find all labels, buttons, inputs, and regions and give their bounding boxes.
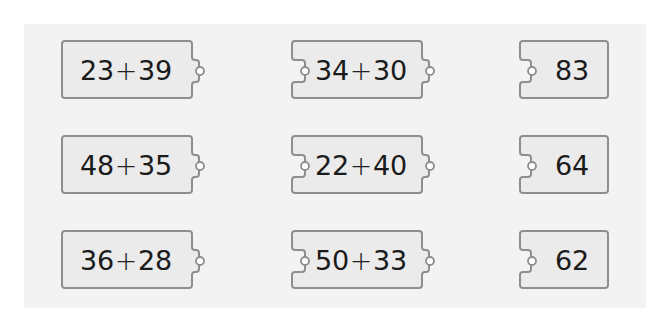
puzzle-piece-expression[interactable]: 50+33 xyxy=(289,230,441,292)
expression-label: 36+28 xyxy=(80,230,172,292)
plus-sign: + xyxy=(349,55,373,86)
connector-knob-icon xyxy=(196,257,204,265)
operand-a: 36 xyxy=(80,245,114,276)
operand-b: 40 xyxy=(373,150,407,181)
puzzle-piece-expression[interactable]: 48+35 xyxy=(59,135,209,197)
connector-knob-icon xyxy=(426,162,434,170)
operand-b: 33 xyxy=(373,245,407,276)
plus-sign: + xyxy=(349,245,373,276)
connector-knob-icon xyxy=(528,67,536,75)
answer-label: 83 xyxy=(555,40,589,102)
expression-label: 48+35 xyxy=(80,135,172,197)
plus-sign: + xyxy=(114,55,138,86)
puzzle-piece-expression[interactable]: 22+40 xyxy=(289,135,441,197)
expression-label: 34+30 xyxy=(315,40,407,102)
connector-knob-icon xyxy=(426,67,434,75)
expression-label: 22+40 xyxy=(315,135,407,197)
plus-sign: + xyxy=(349,150,373,181)
connector-knob-icon xyxy=(301,257,309,265)
operand-a: 34 xyxy=(315,55,349,86)
answer-label: 62 xyxy=(555,230,589,292)
connector-knob-icon xyxy=(301,162,309,170)
puzzle-piece-answer[interactable]: 83 xyxy=(517,40,613,102)
connector-knob-icon xyxy=(426,257,434,265)
connector-knob-icon xyxy=(301,67,309,75)
connector-knob-icon xyxy=(196,67,204,75)
puzzle-piece-expression[interactable]: 36+28 xyxy=(59,230,209,292)
puzzle-piece-expression[interactable]: 34+30 xyxy=(289,40,441,102)
plus-sign: + xyxy=(114,150,138,181)
puzzle-piece-expression[interactable]: 23+39 xyxy=(59,40,209,102)
expression-label: 23+39 xyxy=(80,40,172,102)
operand-a: 48 xyxy=(80,150,114,181)
connector-knob-icon xyxy=(196,162,204,170)
operand-b: 30 xyxy=(373,55,407,86)
connector-knob-icon xyxy=(528,162,536,170)
operand-b: 35 xyxy=(138,150,172,181)
operand-b: 28 xyxy=(138,245,172,276)
operand-a: 50 xyxy=(315,245,349,276)
plus-sign: + xyxy=(114,245,138,276)
puzzle-piece-answer[interactable]: 64 xyxy=(517,135,613,197)
connector-knob-icon xyxy=(528,257,536,265)
operand-a: 22 xyxy=(315,150,349,181)
puzzle-piece-answer[interactable]: 62 xyxy=(517,230,613,292)
operand-b: 39 xyxy=(138,55,172,86)
expression-label: 50+33 xyxy=(315,230,407,292)
answer-label: 64 xyxy=(555,135,589,197)
operand-a: 23 xyxy=(80,55,114,86)
